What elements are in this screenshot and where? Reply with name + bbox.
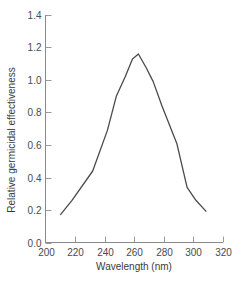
- x-tick-label: 200: [38, 247, 55, 258]
- effectiveness-curve: [60, 54, 206, 215]
- x-tick-label: 260: [126, 247, 143, 258]
- y-tick-label: 0.4: [28, 173, 42, 184]
- y-axis-title: Relative germicidal effectiveness: [6, 67, 17, 212]
- y-tick-label: 1.4: [28, 10, 42, 21]
- x-axis-title: Wavelength (nm): [96, 261, 172, 272]
- line-chart: 0.00.20.40.60.81.01.21.4 200220240260280…: [0, 0, 245, 282]
- y-tick-label: 1.2: [28, 42, 42, 53]
- y-tick-label: 1.0: [28, 75, 42, 86]
- x-tick-label: 300: [185, 247, 202, 258]
- x-tick-label: 220: [67, 247, 84, 258]
- x-tick-label: 320: [215, 247, 232, 258]
- x-tick-label: 280: [156, 247, 173, 258]
- y-axis-ticks: 0.00.20.40.60.81.01.21.4: [28, 10, 52, 249]
- y-tick-label: 0.6: [28, 140, 42, 151]
- y-tick-label: 0.8: [28, 107, 42, 118]
- y-tick-label: 0.2: [28, 205, 42, 216]
- x-axis-ticks: 200220240260280300320: [38, 237, 232, 258]
- x-tick-label: 240: [97, 247, 114, 258]
